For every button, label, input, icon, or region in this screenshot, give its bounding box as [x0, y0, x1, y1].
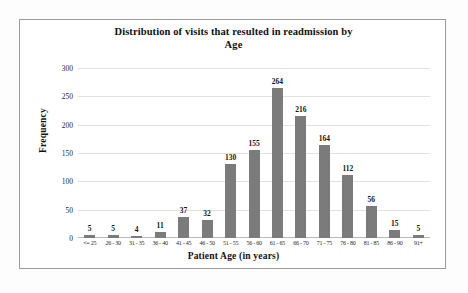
bar-value-label: 130 — [225, 153, 236, 162]
bar[interactable] — [249, 150, 260, 238]
bar[interactable] — [413, 235, 424, 238]
bar-value-label: 112 — [342, 164, 353, 173]
x-axis-tick-label: 66 - 70 — [289, 240, 312, 246]
bar-value-label: 264 — [272, 77, 283, 86]
bar-group[interactable]: 155 — [242, 68, 265, 238]
x-axis-tick-label: 51 - 55 — [219, 240, 242, 246]
x-axis-tick-label: 91+ — [407, 240, 430, 246]
x-axis-tick-label: 81 - 85 — [360, 240, 383, 246]
bar-group[interactable]: 11 — [148, 68, 171, 238]
y-axis-tick-label: 300 — [62, 64, 73, 73]
bar[interactable] — [225, 164, 236, 238]
bar-group[interactable]: 164 — [313, 68, 336, 238]
x-axis-title: Patient Age (in years) — [20, 251, 447, 261]
y-axis-tick-label: 50 — [66, 205, 74, 214]
x-axis-tick-label: 76 - 80 — [336, 240, 359, 246]
x-axis-tick-label: 71 - 75 — [313, 240, 336, 246]
bar-group[interactable]: 4 — [125, 68, 148, 238]
y-axis-title: Frequency — [38, 108, 48, 153]
y-axis-tick-label: 100 — [62, 177, 73, 186]
chart-page: Distribution of visits that resulted in … — [0, 0, 468, 293]
bar-value-label: 155 — [248, 139, 259, 148]
bar[interactable] — [389, 230, 400, 239]
bar-group[interactable]: 112 — [336, 68, 359, 238]
bar-value-label: 5 — [88, 224, 92, 233]
x-axis-tick-label: 41 - 45 — [172, 240, 195, 246]
chart-title-line-2: Age — [20, 39, 447, 52]
bar-group[interactable]: 5 — [78, 68, 101, 238]
bar-group[interactable]: 15 — [383, 68, 406, 238]
bar-value-label: 4 — [135, 225, 139, 234]
x-axis-tick-label: 56 - 60 — [242, 240, 265, 246]
bar[interactable] — [366, 206, 377, 238]
bar-group[interactable]: 264 — [266, 68, 289, 238]
bar-value-label: 56 — [368, 195, 376, 204]
bar[interactable] — [272, 88, 283, 238]
bar[interactable] — [84, 235, 95, 238]
bar[interactable] — [295, 116, 306, 238]
bar[interactable] — [319, 145, 330, 238]
bar[interactable] — [202, 220, 213, 238]
bar-group[interactable]: 130 — [219, 68, 242, 238]
y-axis-tick-label: 150 — [62, 149, 73, 158]
bar-value-label: 5 — [111, 224, 115, 233]
x-axis-ticks: <= 2526 - 3031 - 3536 - 4041 - 4546 - 50… — [78, 240, 430, 246]
bar-group[interactable]: 5 — [407, 68, 430, 238]
y-axis-tick-label: 200 — [62, 120, 73, 129]
bar-group[interactable]: 56 — [360, 68, 383, 238]
bar[interactable] — [342, 175, 353, 238]
y-axis-tick-label: 0 — [69, 234, 73, 243]
bar[interactable] — [178, 217, 189, 238]
bar-value-label: 37 — [180, 206, 188, 215]
bar-value-label: 216 — [295, 105, 306, 114]
bar-value-label: 5 — [416, 224, 420, 233]
bar-value-label: 164 — [319, 134, 330, 143]
x-axis-tick-label: 61 - 65 — [266, 240, 289, 246]
x-axis-tick-label: 36 - 40 — [148, 240, 171, 246]
bar-group[interactable]: 32 — [195, 68, 218, 238]
plot-area: 050100150200250300 554113732130155264216… — [78, 68, 430, 238]
bar[interactable] — [131, 236, 142, 238]
bar-value-label: 15 — [391, 219, 399, 228]
x-axis-tick-label: 31 - 35 — [125, 240, 148, 246]
x-axis-tick-label: 46 - 50 — [195, 240, 218, 246]
bar-value-label: 11 — [157, 221, 164, 230]
chart-frame: Distribution of visits that resulted in … — [19, 19, 446, 269]
chart-title: Distribution of visits that resulted in … — [20, 26, 447, 51]
chart-title-line-1: Distribution of visits that resulted in … — [20, 26, 447, 39]
x-axis-tick-label: 86 - 90 — [383, 240, 406, 246]
bar-group[interactable]: 216 — [289, 68, 312, 238]
y-axis-tick-label: 250 — [62, 92, 73, 101]
x-axis-tick-label: 26 - 30 — [101, 240, 124, 246]
bar-series: 55411373213015526421616411256155 — [78, 68, 430, 238]
bar-value-label: 32 — [203, 209, 211, 218]
bar[interactable] — [155, 232, 166, 238]
bar-group[interactable]: 5 — [101, 68, 124, 238]
bar[interactable] — [108, 235, 119, 238]
bar-group[interactable]: 37 — [172, 68, 195, 238]
x-axis-tick-label: <= 25 — [78, 240, 101, 246]
